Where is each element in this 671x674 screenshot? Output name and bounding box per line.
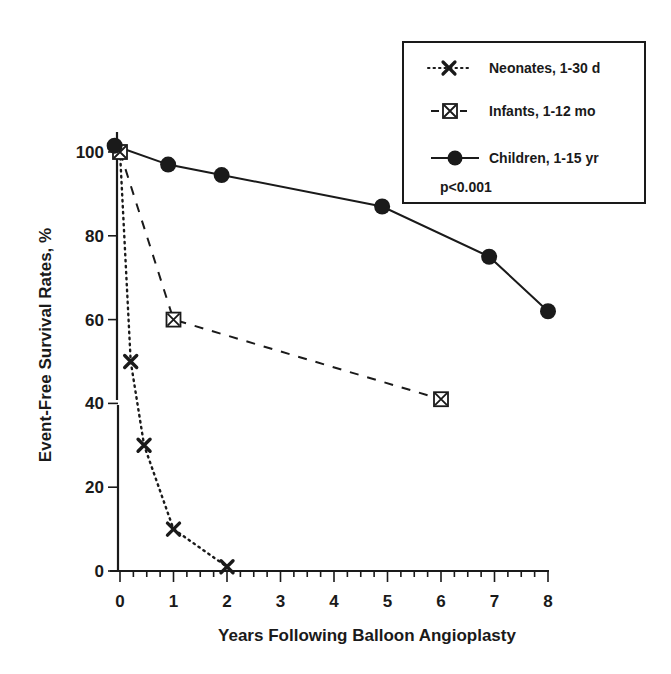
filled-circle-marker-icon [448, 151, 463, 166]
y-tick-labels: 020406080100 [76, 143, 104, 581]
x-tick-label: 1 [169, 592, 178, 611]
x-tick-label: 7 [490, 592, 499, 611]
filled-circle-marker-icon [540, 303, 556, 319]
y-tick-label: 100 [76, 143, 104, 162]
x-tick-label: 3 [276, 592, 285, 611]
p-value-annotation: p<0.001 [440, 179, 492, 195]
y-axis-title: Event-Free Survival Rates, % [36, 228, 55, 462]
y-tick-label: 0 [95, 562, 104, 581]
filled-circle-marker-icon [374, 198, 390, 214]
x-tick-label: 0 [115, 592, 124, 611]
series-line-neonates [120, 152, 227, 567]
x-tick-label: 2 [222, 592, 231, 611]
x-tick-label: 5 [383, 592, 392, 611]
legend-item-infants: Infants, 1-12 mo [431, 103, 596, 119]
boxed-x-marker-icon [443, 104, 457, 118]
boxed-x-marker-icon [434, 392, 448, 406]
filled-circle-marker-icon [481, 249, 497, 265]
legend-label-neonates: Neonates, 1-30 d [489, 60, 600, 76]
x-tick-label: 6 [436, 592, 445, 611]
series-markers-neonates [125, 356, 233, 573]
series-line-infants [120, 152, 441, 399]
series-markers-infants [113, 145, 448, 406]
legend: Neonates, 1-30 d Infants, 1-12 mo Childr… [403, 42, 645, 203]
filled-circle-marker-icon [107, 138, 123, 154]
x-marker-icon [168, 523, 180, 535]
y-tick-label: 60 [85, 311, 104, 330]
y-tick-label: 80 [85, 227, 104, 246]
y-tick-label: 20 [85, 478, 104, 497]
x-ticks [120, 571, 548, 582]
survival-chart: 020406080100 012345678 Years Following B… [0, 0, 671, 674]
boxed-x-marker-icon [167, 313, 181, 327]
legend-label-children: Children, 1-15 yr [489, 150, 599, 166]
legend-item-children: Children, 1-15 yr [431, 150, 599, 166]
y-axis [117, 132, 118, 571]
filled-circle-marker-icon [214, 167, 230, 183]
x-tick-label: 4 [329, 592, 339, 611]
x-tick-labels: 012345678 [115, 592, 552, 611]
x-tick-label: 8 [543, 592, 552, 611]
x-axis-title: Years Following Balloon Angioplasty [218, 626, 516, 645]
legend-label-infants: Infants, 1-12 mo [489, 103, 596, 119]
filled-circle-marker-icon [160, 157, 176, 173]
y-tick-label: 40 [85, 394, 104, 413]
